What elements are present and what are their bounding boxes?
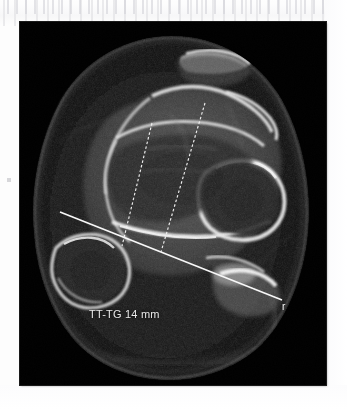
- scan-paper-bottom-margin: [0, 385, 347, 409]
- scan-paper-texture-band: [0, 0, 347, 14]
- ct-axial-knee-slice: [20, 22, 326, 385]
- scan-paper-right-margin: [325, 0, 347, 409]
- ct-anatomy-group: [20, 22, 326, 385]
- page-canvas: TT-TG 14 mm r: [0, 0, 347, 409]
- ct-image-viewport[interactable]: TT-TG 14 mm r: [20, 22, 326, 385]
- tttg-measurement-label: TT-TG 14 mm: [89, 308, 160, 320]
- side-marker-label: r: [282, 301, 286, 312]
- scan-artifact-speck: [7, 178, 11, 182]
